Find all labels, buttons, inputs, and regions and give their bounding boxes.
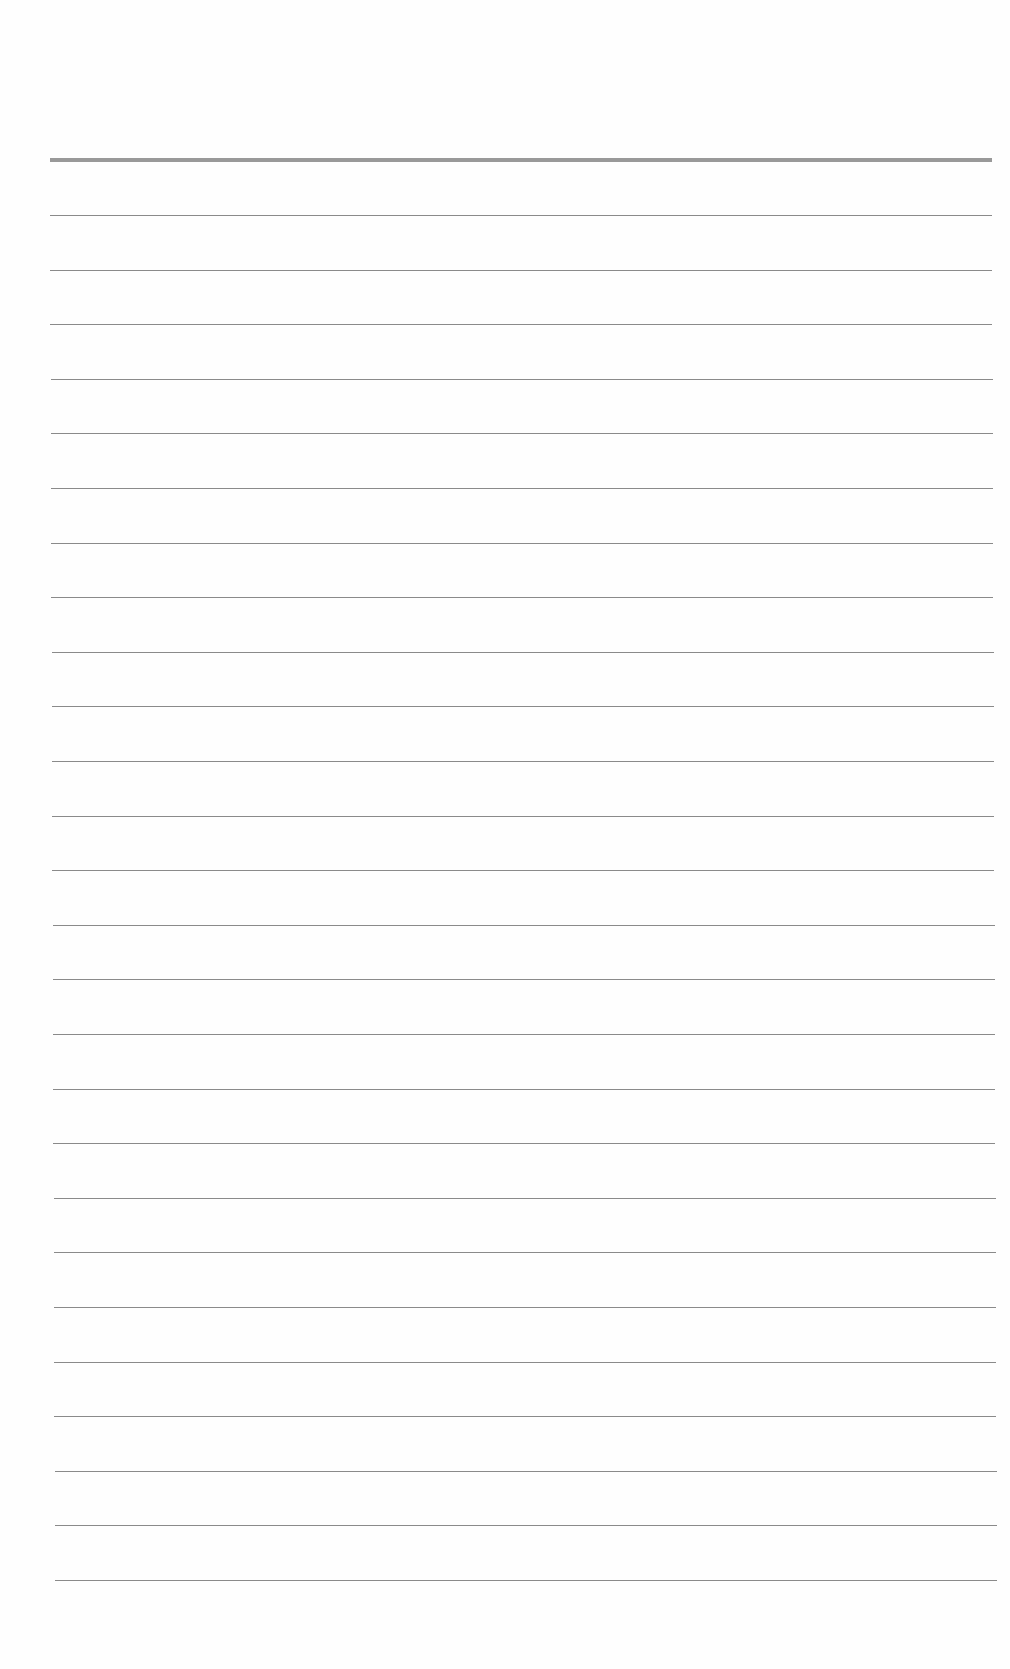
header-rule <box>50 158 992 162</box>
ruled-line <box>54 1416 996 1417</box>
ruled-line <box>52 870 994 871</box>
ruled-line <box>54 1362 996 1363</box>
ruled-line <box>53 1089 995 1090</box>
lined-paper-page <box>0 0 1010 1669</box>
ruled-line <box>51 433 993 434</box>
ruled-line <box>54 1307 996 1308</box>
ruled-line <box>51 379 993 380</box>
ruled-line <box>53 1143 995 1144</box>
ruled-line <box>51 488 993 489</box>
ruled-line <box>52 816 994 817</box>
ruled-line <box>53 979 995 980</box>
ruled-line <box>54 1198 996 1199</box>
ruled-line <box>51 543 993 544</box>
ruled-line <box>54 1252 996 1253</box>
ruled-line <box>51 597 993 598</box>
ruled-line <box>53 925 995 926</box>
ruled-line <box>55 1471 997 1472</box>
ruled-line <box>53 1034 995 1035</box>
ruled-line <box>55 1580 997 1581</box>
ruled-line <box>52 706 994 707</box>
ruled-line <box>55 1525 997 1526</box>
ruled-line <box>52 652 994 653</box>
ruled-line <box>50 270 992 271</box>
ruled-line <box>50 324 992 325</box>
ruled-line <box>52 761 994 762</box>
ruled-line <box>50 215 992 216</box>
